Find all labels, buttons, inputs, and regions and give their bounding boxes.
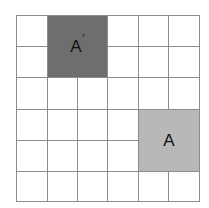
gridline-horizontal (16, 77, 200, 78)
grid: A' A (16, 15, 199, 202)
block-label: A (163, 131, 174, 151)
gridline-horizontal (16, 46, 200, 47)
block-label: A' (70, 37, 84, 57)
image-block-a-prime: A' (47, 15, 108, 78)
gridline-horizontal (16, 201, 200, 202)
gridline-horizontal (16, 15, 200, 16)
original-block-a: A (138, 109, 200, 172)
